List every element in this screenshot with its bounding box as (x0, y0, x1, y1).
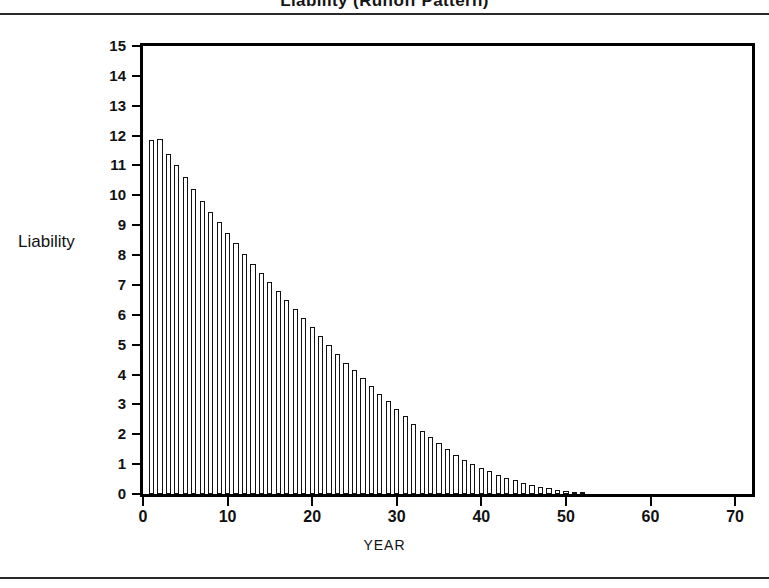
bar (453, 455, 458, 494)
liability-runoff-chart: 0123456789101112131415 010203040506070 L… (0, 0, 769, 588)
y-axis-tick (132, 164, 141, 166)
bar (394, 409, 399, 494)
bar (318, 336, 323, 494)
y-axis-tick (132, 463, 141, 465)
bar (191, 189, 196, 494)
bar-series (143, 46, 752, 494)
bar (513, 480, 518, 494)
bar (183, 177, 188, 494)
y-axis-tick-label: 7 (90, 277, 126, 292)
bar (487, 471, 492, 494)
y-axis-tick (132, 224, 141, 226)
y-axis-tick-label: 1 (90, 456, 126, 471)
bar (326, 345, 331, 494)
bar (149, 140, 154, 494)
y-axis-tick (132, 493, 141, 495)
bar (403, 416, 408, 494)
y-axis-tick (132, 75, 141, 77)
y-axis-tick-label: 9 (90, 217, 126, 232)
y-axis-tick (132, 403, 141, 405)
y-axis-tick-label: 8 (90, 247, 126, 262)
bar (572, 492, 577, 494)
bar (352, 370, 357, 494)
bar (529, 485, 534, 494)
bar (428, 437, 433, 494)
x-axis-tick (480, 497, 482, 506)
x-axis-tick-label: 0 (123, 509, 163, 525)
bar (563, 491, 568, 494)
x-axis-tick (142, 497, 144, 506)
bar (310, 327, 315, 494)
bar (284, 300, 289, 494)
y-axis-tick (132, 314, 141, 316)
y-axis-tick (132, 254, 141, 256)
y-axis-tick-label: 4 (90, 367, 126, 382)
bar (504, 478, 509, 494)
x-axis-tick-label: 60 (631, 509, 671, 525)
bar (166, 154, 171, 494)
y-axis-tick (132, 374, 141, 376)
bar (360, 378, 365, 494)
x-axis-tick (650, 497, 652, 506)
bar (250, 264, 255, 494)
bar (242, 254, 247, 494)
bar (445, 449, 450, 494)
bar (386, 401, 391, 494)
y-axis-tick-label: 10 (90, 187, 126, 202)
x-axis-tick (311, 497, 313, 506)
bar (462, 460, 467, 494)
bar (259, 273, 264, 494)
bar (377, 394, 382, 494)
bar (208, 212, 213, 494)
y-axis-tick-label: 11 (90, 157, 126, 172)
x-axis-tick (227, 497, 229, 506)
bar (420, 431, 425, 494)
bar (580, 492, 585, 494)
x-axis-tick-label: 70 (715, 509, 755, 525)
x-axis-tick-label: 40 (461, 509, 501, 525)
y-axis-tick (132, 135, 141, 137)
bar (343, 363, 348, 494)
bar (335, 354, 340, 494)
y-axis-tick (132, 344, 141, 346)
x-axis-title: YEAR (0, 537, 769, 553)
bar (217, 222, 222, 494)
y-axis-tick-label: 12 (90, 128, 126, 143)
bar (301, 318, 306, 494)
bar (470, 464, 475, 494)
y-axis-tick (132, 194, 141, 196)
y-axis-tick-label: 14 (90, 68, 126, 83)
bar (200, 201, 205, 494)
bar (555, 490, 560, 494)
y-axis-tick-label: 6 (90, 307, 126, 322)
bar (538, 487, 543, 494)
y-axis-tick (132, 105, 141, 107)
bar (267, 282, 272, 494)
y-axis-tick (132, 433, 141, 435)
x-axis-tick-label: 10 (208, 509, 248, 525)
bar (546, 488, 551, 494)
y-axis-tick-label: 3 (90, 396, 126, 411)
x-axis-tick-label: 20 (292, 509, 332, 525)
y-axis-tick-label: 2 (90, 426, 126, 441)
bar (411, 424, 416, 494)
y-axis-tick (132, 284, 141, 286)
y-axis-title: Liability (18, 232, 75, 252)
x-axis-tick (396, 497, 398, 506)
bar (369, 386, 374, 494)
bar (157, 139, 162, 494)
bar (496, 475, 501, 494)
bar (479, 468, 484, 494)
y-axis-tick-label: 13 (90, 98, 126, 113)
bar (436, 443, 441, 494)
bar (233, 243, 238, 494)
y-axis-tick-label: 15 (90, 38, 126, 53)
bar (293, 309, 298, 494)
x-axis-tick-label: 30 (377, 509, 417, 525)
y-axis-tick (132, 45, 141, 47)
bar (276, 291, 281, 494)
x-axis-tick (565, 497, 567, 506)
y-axis-tick-label: 0 (90, 486, 126, 501)
x-axis-tick (734, 497, 736, 506)
x-axis-tick-label: 50 (546, 509, 586, 525)
